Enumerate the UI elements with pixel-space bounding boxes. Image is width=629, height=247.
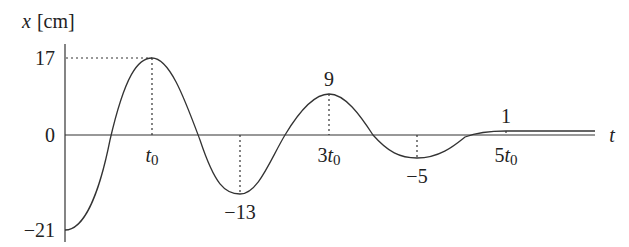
x-tick-t0: t0 (145, 144, 158, 168)
x-tick-3t0: 3t0 (317, 144, 340, 168)
y-tick-0: 0 (45, 124, 55, 146)
guide-lines (66, 58, 506, 194)
y-tick-minus-21: −21 (24, 219, 55, 241)
y-axis-label: x[cm] (21, 10, 75, 32)
extremum-label-minus-13: −13 (224, 201, 255, 223)
extremum-label-1: 1 (501, 105, 511, 127)
damped-oscillation-chart: x[cm] 17 0 −21 t0 3t0 5t0 t −13 9 −5 1 (0, 0, 629, 247)
extremum-label-minus-5: −5 (406, 165, 427, 187)
t-axis-label: t (609, 124, 615, 146)
extremum-label-9: 9 (324, 68, 334, 90)
x-tick-5t0: 5t0 (494, 144, 517, 168)
y-tick-17: 17 (35, 47, 55, 69)
